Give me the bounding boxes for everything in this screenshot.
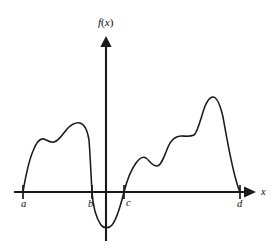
tick-label-b: b [88, 198, 93, 209]
y-axis-arrowhead [100, 36, 111, 47]
function-graph-figure: f(x) x a b c d [0, 0, 280, 250]
y-axis-label: f(x) [98, 16, 114, 29]
x-axis-label: x [260, 186, 266, 197]
function-curve [23, 97, 240, 228]
graph-canvas: f(x) x a b c d [0, 0, 280, 250]
tick-label-d: d [237, 198, 243, 209]
tick-label-a: a [21, 198, 26, 209]
x-axis-arrowhead [244, 186, 256, 197]
y-axis-label-paren-close: ) [110, 16, 114, 29]
tick-label-c: c [126, 197, 131, 208]
